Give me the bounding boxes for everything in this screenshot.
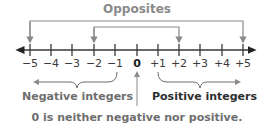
tick-label-zero: 0 xyxy=(133,57,140,70)
opposites-title: Opposites xyxy=(0,2,264,16)
zero-note: 0 is neither negative nor positive. xyxy=(0,111,264,124)
tick-label-pos3: +3 xyxy=(192,57,208,70)
tick-label-neg3: −3 xyxy=(64,57,80,70)
tick-label-neg5: −5 xyxy=(22,57,38,70)
negative-brace xyxy=(36,72,117,88)
tick-label-pos4: +4 xyxy=(214,57,230,70)
tick-label-neg2: −2 xyxy=(86,57,102,70)
tick-label-neg4: −4 xyxy=(43,57,59,70)
tick-label-pos5: +5 xyxy=(235,57,251,70)
negative-integers-label: Negative integers xyxy=(22,90,133,103)
opposites-outer-bracket xyxy=(30,21,243,40)
opposites-inner-bracket xyxy=(94,27,179,40)
positive-brace xyxy=(158,72,238,88)
tick-label-pos2: +2 xyxy=(171,57,187,70)
tick-label-pos1: +1 xyxy=(150,57,166,70)
positive-integers-label: Positive integers xyxy=(152,90,257,103)
integers-number-line-diagram: Opposites −5 −4 −3 −2 −1 0 +1 +2 +3 +4 +… xyxy=(0,0,264,130)
tick-label-neg1: −1 xyxy=(107,57,123,70)
